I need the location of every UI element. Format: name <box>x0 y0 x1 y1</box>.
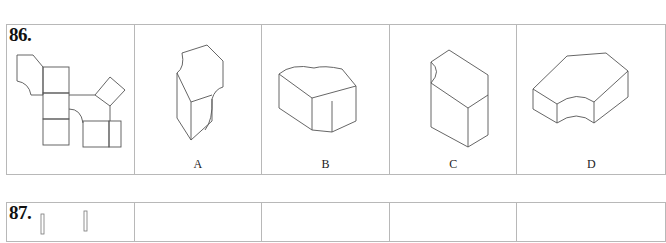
question-86-net-cell: 86. <box>7 25 135 174</box>
question-87-net-cell: 87. <box>7 203 135 241</box>
question-86-row: 86. A <box>6 24 666 175</box>
option-cell[interactable] <box>262 203 390 241</box>
option-a-cell[interactable]: A <box>135 25 263 174</box>
option-b-cell[interactable]: B <box>262 25 390 174</box>
option-label: A <box>135 157 262 172</box>
option-label: C <box>390 157 517 172</box>
net-diagram-partial-icon <box>7 203 135 243</box>
option-d-cell[interactable]: D <box>517 25 665 174</box>
solid-c-icon <box>390 25 518 175</box>
solid-b-icon <box>262 25 390 175</box>
option-label: D <box>517 157 665 172</box>
solid-a-icon <box>135 25 263 175</box>
question-87-row: 87. <box>6 202 666 242</box>
solid-d-icon <box>517 25 665 175</box>
net-diagram-icon <box>7 25 135 175</box>
option-label: B <box>262 157 389 172</box>
option-c-cell[interactable]: C <box>390 25 518 174</box>
option-cell[interactable] <box>390 203 518 241</box>
option-cell[interactable] <box>517 203 665 241</box>
option-cell[interactable] <box>135 203 263 241</box>
